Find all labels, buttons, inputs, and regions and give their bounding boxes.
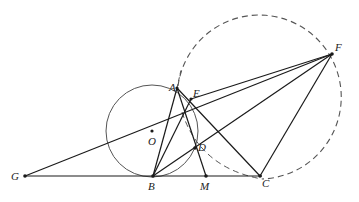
segment-gf	[25, 54, 332, 176]
segment-am	[177, 88, 206, 176]
label-d: D	[197, 141, 206, 153]
point-f	[330, 52, 334, 56]
label-a: A	[168, 81, 176, 93]
dashed-arc-inner	[182, 112, 262, 179]
point-d	[193, 146, 197, 150]
label-g: G	[11, 170, 19, 182]
point-m	[204, 174, 208, 178]
point-a	[175, 86, 178, 89]
label-f: F	[334, 41, 342, 53]
segment-cf	[260, 54, 332, 176]
point-g	[23, 174, 27, 178]
point-b	[151, 174, 155, 178]
point-o	[150, 129, 153, 132]
label-c: C	[262, 177, 270, 189]
label-b: B	[148, 180, 155, 192]
segment-be	[153, 99, 191, 176]
geometry-diagram: G B M C A E D F O	[0, 0, 359, 202]
label-e: E	[192, 87, 200, 99]
label-m: M	[199, 180, 210, 192]
segment-ef	[191, 54, 332, 99]
dashed-extension-a	[177, 70, 181, 88]
label-o: O	[148, 135, 156, 147]
dashed-circle	[178, 15, 341, 179]
